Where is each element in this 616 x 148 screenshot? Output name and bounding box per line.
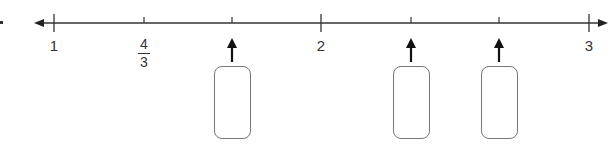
fraction-numerator: 4 — [140, 36, 148, 52]
right-arrow-icon — [598, 19, 608, 27]
label-3: 3 — [574, 37, 604, 54]
label-1: 1 — [39, 37, 69, 54]
left-arrow-icon — [34, 19, 44, 27]
number-line — [0, 0, 616, 148]
up-arrow-icon — [227, 38, 237, 62]
answer-box-2[interactable] — [393, 66, 430, 139]
label-2: 2 — [306, 37, 336, 54]
up-arrow-icon — [406, 38, 416, 62]
fraction-denominator: 3 — [140, 54, 148, 70]
up-arrow-icon — [494, 38, 504, 62]
label-4-3: 4 3 — [129, 37, 159, 70]
answer-box-3[interactable] — [481, 66, 518, 139]
answer-box-1[interactable] — [214, 66, 251, 139]
